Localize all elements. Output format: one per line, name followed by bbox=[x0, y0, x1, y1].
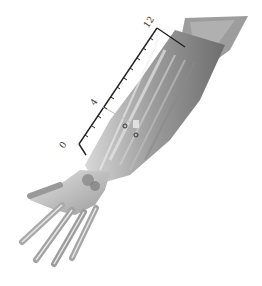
hand bbox=[22, 170, 110, 264]
forearm bbox=[85, 30, 225, 185]
ruler-end-tick-0 bbox=[79, 144, 86, 155]
anatomy-illustration: 0 4 12 bbox=[0, 0, 262, 286]
forearm-drawing bbox=[0, 0, 262, 286]
